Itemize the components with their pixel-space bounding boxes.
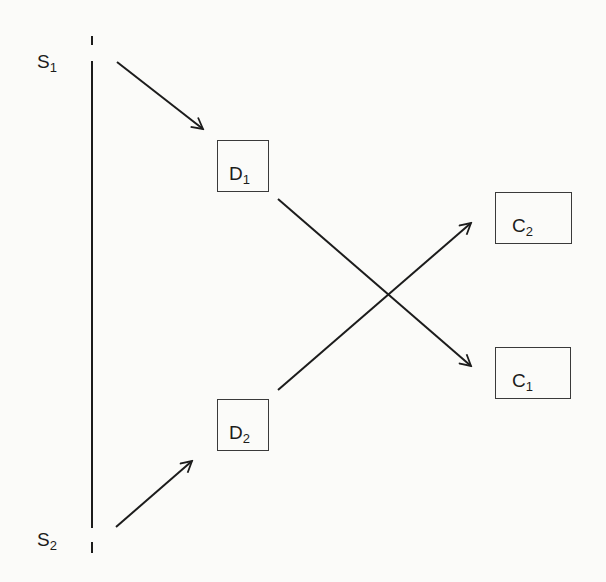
c1-letter: C — [512, 370, 526, 391]
c2-letter: C — [512, 215, 526, 236]
detector-d2-box: D2 — [217, 399, 269, 451]
counter-c1-box: C1 — [495, 347, 571, 399]
d2-subscript: 2 — [243, 431, 250, 446]
counter-c1-label: C1 — [512, 371, 533, 393]
source-s2-label: S2 — [37, 530, 57, 552]
d2-letter: D — [229, 422, 243, 443]
arrow-s2-d2 — [116, 461, 192, 527]
counter-c2-label: C2 — [512, 216, 533, 238]
d1-letter: D — [229, 163, 243, 184]
counter-c2-box: C2 — [495, 192, 572, 244]
arrow-s1-d1 — [117, 62, 203, 129]
d1-subscript: 1 — [243, 172, 250, 187]
detector-d1-box: D1 — [217, 140, 269, 192]
s1-letter: S — [37, 51, 50, 72]
s1-subscript: 1 — [50, 60, 57, 75]
arrow-d2-c2 — [278, 223, 471, 390]
s2-letter: S — [37, 529, 50, 550]
arrow-d1-c1 — [278, 199, 471, 366]
diagram-lines — [0, 0, 606, 582]
s2-subscript: 2 — [50, 538, 57, 553]
detector-d2-label: D2 — [229, 423, 250, 445]
c1-subscript: 1 — [526, 379, 533, 394]
detector-d1-label: D1 — [229, 164, 250, 186]
c2-subscript: 2 — [526, 224, 533, 239]
source-s1-label: S1 — [37, 52, 57, 74]
